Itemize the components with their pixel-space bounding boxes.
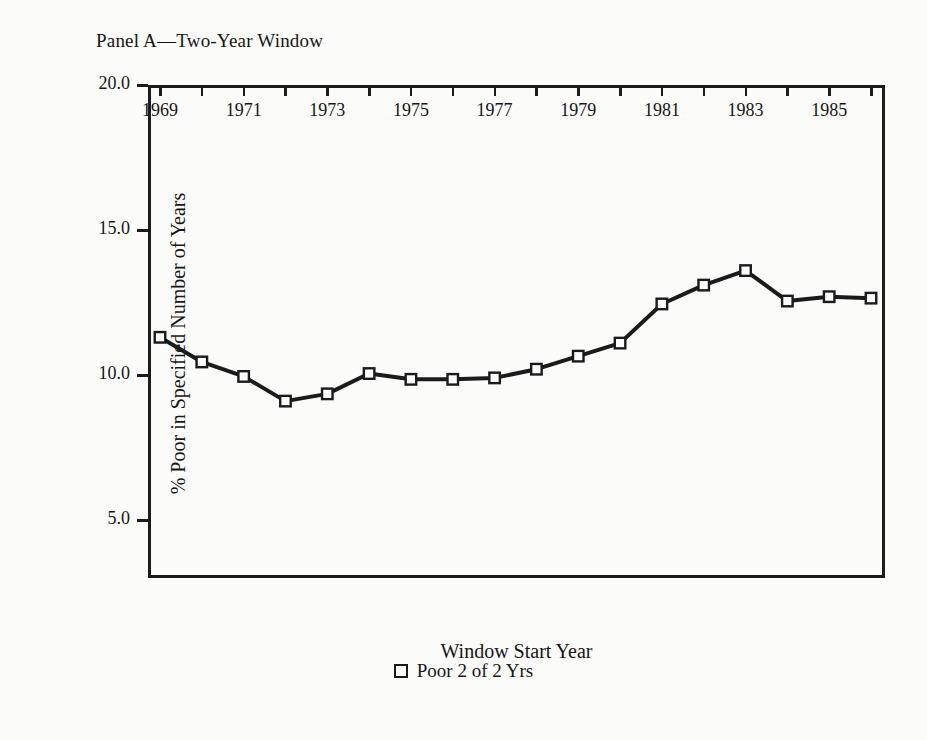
y-tick-label: 20.0 <box>99 73 131 94</box>
chart-legend: Poor 2 of 2 Yrs <box>0 660 927 682</box>
data-series-layer <box>148 85 885 578</box>
data-point-marker <box>448 374 459 385</box>
figure-page: Panel A—Two-Year Window % Poor in Specif… <box>0 0 927 740</box>
data-point-marker <box>782 296 793 307</box>
data-point-marker <box>657 299 668 310</box>
data-point-marker <box>406 374 417 385</box>
data-point-marker <box>322 389 333 400</box>
series-line <box>160 271 871 402</box>
data-point-marker <box>615 338 626 349</box>
data-point-marker <box>824 291 835 302</box>
plot-area: % Poor in Specified Number of Years 5.01… <box>148 85 885 578</box>
y-tick-mark <box>137 519 148 522</box>
legend-entry: Poor 2 of 2 Yrs <box>394 660 533 682</box>
data-point-marker <box>573 351 584 362</box>
y-tick-label: 10.0 <box>99 363 131 384</box>
y-tick-mark <box>137 229 148 232</box>
y-tick-label: 5.0 <box>108 508 131 529</box>
data-point-marker <box>238 371 249 382</box>
y-tick-mark <box>137 84 148 87</box>
open-square-icon <box>394 664 408 678</box>
data-point-marker <box>866 293 877 304</box>
data-point-marker <box>280 396 291 407</box>
panel-title: Panel A—Two-Year Window <box>96 30 323 52</box>
y-tick-label: 15.0 <box>99 218 131 239</box>
data-point-marker <box>489 373 500 384</box>
data-point-marker <box>698 280 709 291</box>
data-point-marker <box>155 332 166 343</box>
data-point-marker <box>531 364 542 375</box>
y-tick-mark <box>137 374 148 377</box>
data-point-marker <box>197 357 208 368</box>
data-point-marker <box>364 368 375 379</box>
legend-label: Poor 2 of 2 Yrs <box>417 660 533 682</box>
data-point-marker <box>740 265 751 276</box>
